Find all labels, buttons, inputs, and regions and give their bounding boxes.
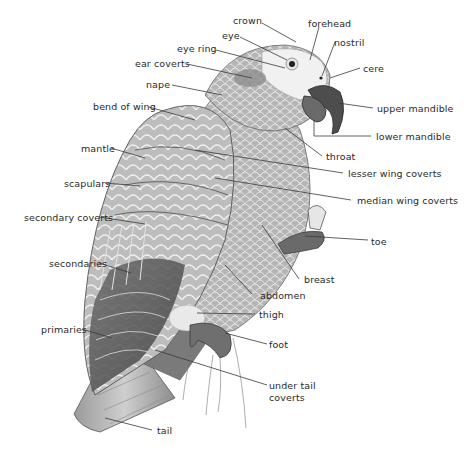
label-secondaries: secondaries [49,258,107,269]
label-upper-mandible: upper mandible [377,103,454,114]
label-bend-of-wing: bend of wing [93,101,156,112]
label-lower-mandible: lower mandible [376,131,451,142]
label-tail: tail [157,425,172,436]
eye [289,61,295,67]
label-breast: breast [304,274,335,285]
label-abdomen: abdomen [260,290,306,301]
label-primaries: primaries [41,324,87,335]
label-cere: cere [363,63,384,74]
label-nostril: nostril [334,37,364,48]
label-foot: foot [269,339,288,350]
label-crown: crown [233,15,262,26]
label-secondary-coverts: secondary coverts [24,212,113,223]
label-throat: throat [326,151,355,162]
label-nape: nape [146,79,170,90]
label-eye-ring: eye ring [177,43,217,54]
label-scapulars: scapulars [64,178,110,189]
label-median-wing-coverts: median wing coverts [357,195,458,206]
parrot-illustration [0,0,464,463]
label-thigh: thigh [259,309,284,320]
label-under-tail-coverts-1: under tail [269,380,316,391]
label-toe: toe [371,236,387,247]
parrot-anatomy-diagram: crown forehead eye nostril eye ring ear … [0,0,464,463]
label-eye: eye [222,30,240,41]
label-under-tail-coverts-2: coverts [269,392,305,403]
label-ear-coverts: ear coverts [135,58,190,69]
label-lesser-wing-coverts: lesser wing coverts [348,168,442,179]
label-forehead: forehead [308,18,351,29]
label-mantle: mantle [81,143,115,154]
